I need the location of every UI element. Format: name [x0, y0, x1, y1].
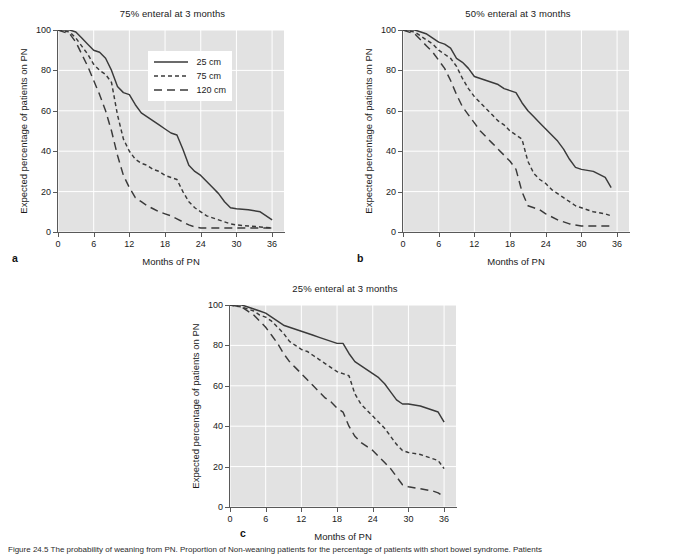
y-tick-b-20	[398, 192, 402, 193]
y-tick-label-a-60: 60	[28, 106, 51, 116]
y-tick-b-0	[398, 232, 402, 233]
panel-c-title: 25% enteral at 3 months	[172, 283, 518, 294]
x-tick-a-0	[58, 233, 59, 237]
y-axis-title-b: Expected percentage of patients on PN	[363, 30, 374, 232]
x-tick-label-a-6: 6	[91, 239, 96, 249]
y-axis-line-b	[402, 30, 403, 233]
x-tick-label-c-0: 0	[227, 514, 232, 524]
figure-caption: Figure 24.5 The probability of weaning f…	[8, 545, 683, 555]
x-axis-line-a	[57, 232, 285, 233]
panel-letter-b: b	[357, 252, 363, 264]
x-tick-label-b-12: 12	[469, 239, 479, 249]
x-tick-label-c-24: 24	[368, 514, 378, 524]
y-tick-label-b-20: 20	[373, 187, 396, 197]
y-tick-c-80	[225, 345, 229, 346]
x-tick-b-0	[403, 233, 404, 237]
y-axis-title-c: Expected percentage of patients on PN	[190, 305, 201, 507]
plot-area-b	[403, 30, 629, 232]
x-tick-b-12	[474, 233, 475, 237]
legend-key-short-line-icon	[153, 71, 189, 81]
y-tick-label-b-0: 0	[373, 227, 396, 237]
y-tick-label-b-60: 60	[373, 106, 396, 116]
y-tick-b-40	[398, 151, 402, 152]
y-tick-b-80	[398, 70, 402, 71]
y-tick-b-100	[398, 30, 402, 31]
y-tick-a-0	[53, 232, 57, 233]
y-tick-label-c-0: 0	[200, 502, 223, 512]
x-axis-title-c: Months of PN	[230, 531, 456, 542]
y-tick-label-a-100: 100	[28, 25, 51, 35]
x-tick-label-c-12: 12	[296, 514, 306, 524]
y-tick-c-0	[225, 507, 229, 508]
x-tick-c-6	[266, 508, 267, 512]
x-tick-label-b-24: 24	[541, 239, 551, 249]
legend-label-2: 120 cm	[196, 85, 226, 95]
x-tick-b-6	[439, 233, 440, 237]
x-tick-c-36	[444, 508, 445, 512]
x-tick-a-18	[165, 233, 166, 237]
x-axis-line-b	[402, 232, 630, 233]
y-axis-title-a: Expected percentage of patients on PN	[18, 30, 29, 232]
x-tick-label-a-24: 24	[196, 239, 206, 249]
x-tick-a-12	[129, 233, 130, 237]
y-tick-label-b-80: 80	[373, 65, 396, 75]
y-tick-a-80	[53, 70, 57, 71]
x-axis-line-c	[229, 507, 457, 508]
y-axis-line-c	[229, 305, 230, 508]
x-tick-a-36	[272, 233, 273, 237]
y-tick-label-b-40: 40	[373, 146, 396, 156]
x-tick-c-30	[408, 508, 409, 512]
x-tick-a-30	[236, 233, 237, 237]
x-axis-title-a: Months of PN	[58, 256, 284, 267]
x-tick-b-30	[581, 233, 582, 237]
y-axis-line-a	[57, 30, 58, 233]
legend-item-25-cm: 25 cm	[153, 55, 226, 69]
legend: 25 cm75 cm120 cm	[148, 51, 232, 101]
x-tick-c-18	[337, 508, 338, 512]
x-tick-label-c-6: 6	[263, 514, 268, 524]
x-tick-label-b-0: 0	[400, 239, 405, 249]
y-tick-label-c-80: 80	[200, 340, 223, 350]
panel-a-title: 75% enteral at 3 months	[0, 8, 345, 19]
x-tick-label-b-36: 36	[612, 239, 622, 249]
legend-label-1: 75 cm	[196, 71, 221, 81]
y-tick-label-c-60: 60	[200, 381, 223, 391]
legend-key-long-line-icon	[153, 85, 189, 95]
x-tick-label-b-18: 18	[505, 239, 515, 249]
y-tick-a-20	[53, 192, 57, 193]
y-tick-label-c-40: 40	[200, 421, 223, 431]
legend-key-solid-line-icon	[153, 57, 189, 67]
y-tick-c-100	[225, 305, 229, 306]
y-tick-label-c-100: 100	[200, 300, 223, 310]
plot-area-c	[230, 305, 456, 507]
x-tick-label-b-30: 30	[576, 239, 586, 249]
x-tick-label-c-30: 30	[403, 514, 413, 524]
x-tick-c-24	[373, 508, 374, 512]
panel-b: 50% enteral at 3 months 0612182430360204…	[345, 8, 691, 273]
y-tick-label-a-80: 80	[28, 65, 51, 75]
y-tick-a-60	[53, 111, 57, 112]
x-tick-label-a-36: 36	[267, 239, 277, 249]
y-tick-c-60	[225, 386, 229, 387]
panel-letter-a: a	[12, 252, 18, 264]
y-tick-label-c-20: 20	[200, 462, 223, 472]
panel-b-title: 50% enteral at 3 months	[345, 8, 691, 19]
x-tick-label-b-6: 6	[436, 239, 441, 249]
x-tick-label-a-18: 18	[160, 239, 170, 249]
x-tick-c-12	[301, 508, 302, 512]
plot-c: 061218243036020406080100Months of PNExpe…	[230, 305, 456, 507]
plot-b: 061218243036020406080100Months of PNExpe…	[403, 30, 629, 232]
y-tick-b-60	[398, 111, 402, 112]
legend-item-120-cm: 120 cm	[153, 83, 226, 97]
y-tick-label-a-20: 20	[28, 187, 51, 197]
curve-b-75-cm	[403, 30, 611, 216]
x-tick-label-a-30: 30	[231, 239, 241, 249]
x-tick-a-6	[94, 233, 95, 237]
x-axis-title-b: Months of PN	[403, 256, 629, 267]
y-tick-c-20	[225, 467, 229, 468]
panel-a: 75% enteral at 3 months 0612182430360204…	[0, 8, 345, 273]
x-tick-a-24	[201, 233, 202, 237]
panel-letter-c: c	[240, 527, 246, 539]
y-tick-a-40	[53, 151, 57, 152]
